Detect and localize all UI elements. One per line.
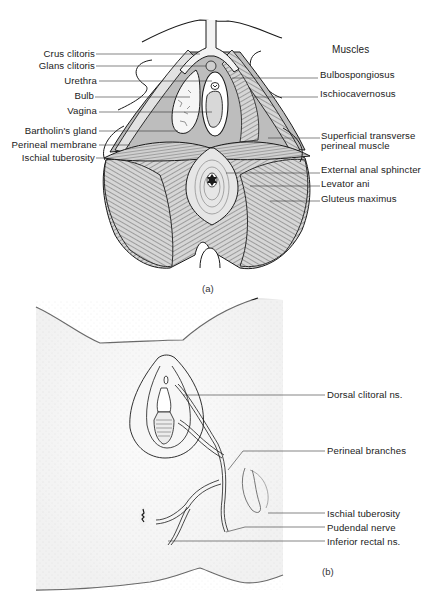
label-ischiocavernosus: Ischiocavernosus [320, 88, 396, 99]
label-glans-clitoris: Glans clitoris [39, 60, 95, 71]
label-bartholins-gland: Bartholin's gland [25, 125, 97, 136]
label-ischial-tuberosity-b: Ischial tuberosity [327, 508, 400, 519]
label-inferior-rectal-ns: Inferior rectal ns. [327, 536, 400, 547]
label-perineal-branches: Perineal branches [327, 445, 406, 456]
label-vagina: Vagina [67, 105, 97, 116]
figure-a-drawing [95, 20, 320, 269]
label-ischial-tuberosity-a: Ischial tuberosity [22, 152, 95, 163]
label-crus-clitoris: Crus clitoris [44, 48, 95, 59]
label-perineal-membrane: Perineal membrane [12, 139, 97, 150]
label-urethra: Urethra [64, 75, 97, 86]
label-dorsal-clitoral-ns: Dorsal clitoral ns. [327, 389, 402, 400]
label-bulbospongiosus: Bulbospongiosus [320, 69, 395, 80]
label-bulb: Bulb [74, 90, 94, 101]
label-external-anal-sphincter: External anal sphincter [321, 164, 421, 175]
label-perineal-muscle: perineal muscle [321, 140, 390, 151]
caption-b: (b) [322, 566, 334, 577]
muscles-heading: Muscles [332, 44, 369, 55]
caption-a: (a) [202, 283, 214, 294]
label-gluteus-maximus: Gluteus maximus [321, 193, 397, 204]
figure-b-drawing [36, 298, 325, 590]
label-levator-ani: Levator ani [321, 178, 370, 189]
label-pudendal-nerve: Pudendal nerve [327, 522, 396, 533]
